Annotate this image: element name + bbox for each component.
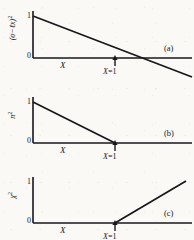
y-axis-label-a-exponent: 2: [7, 16, 13, 19]
y-axis-label-a: (σ−ℓx)2: [7, 18, 18, 40]
y-tick-c-0: 0: [21, 217, 31, 225]
x-axis-label-b: X: [60, 146, 66, 155]
y-axis-label-a-text: (σ−ℓx): [8, 19, 17, 41]
y-tick-c-1: 1: [21, 178, 31, 186]
y-tick-a-0: 0: [21, 52, 31, 60]
plot-svg-c: [0, 160, 194, 240]
data-line-c: [115, 181, 186, 223]
plot-svg-b: [0, 80, 194, 160]
y-axis-label-c-exponent: 2: [7, 192, 13, 195]
y-axis-label-c-text: χ: [8, 195, 17, 199]
y-tick-b-0: 0: [21, 137, 31, 145]
panel-a: (σ−ℓx)2 1 0 X X=1 (a): [0, 0, 194, 80]
panel-label-c: (c): [164, 209, 173, 218]
y-tick-a-1: 1: [21, 12, 31, 20]
panel-c: χ2 1 0 X X=1 (c): [0, 160, 194, 240]
marker-label-a: X=1: [103, 68, 116, 76]
marker-label-c: X=1: [103, 233, 116, 240]
x-axis-label-a: X: [60, 61, 66, 70]
y-axis-label-b: n2: [7, 104, 18, 126]
y-axis-label-b-text: n: [8, 115, 17, 119]
y-axis-label-b-exponent: 2: [7, 112, 13, 115]
y-axis-label-c: χ2: [7, 184, 18, 206]
panel-b: n2 1 0 X X=1 (b): [0, 80, 194, 160]
plot-area-b: [0, 80, 194, 160]
x-axis-label-c: X: [60, 226, 66, 235]
data-line-b: [33, 102, 115, 143]
plot-area-c: [0, 160, 194, 240]
marker-label-a-value: =1: [108, 67, 117, 76]
panel-label-a: (a): [164, 44, 173, 53]
y-tick-b-1: 1: [21, 98, 31, 106]
panel-label-b: (b): [164, 129, 174, 138]
marker-label-c-value: =1: [108, 232, 117, 240]
figure-three-panel-plot: (σ−ℓx)2 1 0 X X=1 (a) n2 1 0 X X=1: [0, 0, 194, 240]
